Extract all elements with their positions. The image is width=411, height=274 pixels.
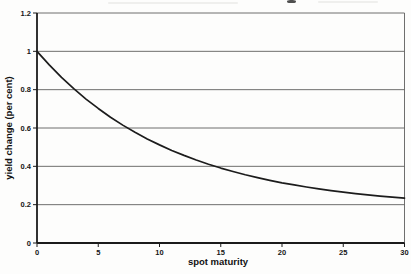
plot-area: 05101520253000.20.40.60.811.2 yield chan… [0, 0, 411, 274]
svg-text:0.4: 0.4 [21, 162, 32, 171]
svg-text:0.8: 0.8 [21, 85, 31, 94]
scan-artifact [318, 1, 378, 3]
chart-figure: 05101520253000.20.40.60.811.2 yield chan… [0, 0, 411, 274]
svg-text:25: 25 [339, 248, 347, 257]
svg-text:30: 30 [400, 248, 408, 257]
svg-text:0: 0 [27, 239, 31, 248]
tick-labels: 05101520253000.20.40.60.811.2 [21, 9, 409, 257]
x-axis-title: spot maturity [188, 256, 249, 267]
svg-text:0.2: 0.2 [21, 200, 31, 209]
scan-artifact [108, 2, 238, 4]
gridlines [37, 13, 405, 243]
y-axis-title: yield change (per cent) [3, 76, 14, 179]
svg-text:10: 10 [155, 248, 163, 257]
svg-text:5: 5 [96, 248, 100, 257]
svg-text:0: 0 [35, 248, 39, 257]
yield-curve-line [37, 51, 405, 198]
svg-text:20: 20 [278, 248, 286, 257]
svg-text:0.6: 0.6 [21, 124, 31, 133]
cropped-title-remnant [287, 0, 296, 3]
svg-text:1: 1 [27, 47, 31, 56]
tick-marks [33, 13, 405, 247]
svg-text:1.2: 1.2 [21, 9, 31, 18]
